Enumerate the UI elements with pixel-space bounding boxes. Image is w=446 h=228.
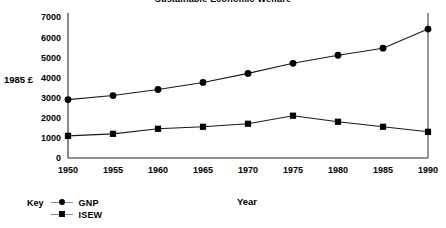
y-tick-label: 4000 [41,73,61,83]
x-tick-label: 1955 [103,165,123,175]
x-tick-label: 1985 [373,165,393,175]
legend-key-label: Key [27,197,44,208]
circle-marker-icon [59,199,65,205]
legend-item-gnp[interactable]: GNP [51,197,103,208]
data-point-gnp [425,26,432,33]
x-tick-label: 1980 [328,165,348,175]
x-tick-label: 1990 [418,165,438,175]
legend-swatch-circle-icon [51,198,73,207]
x-axis-caption: Year [237,196,257,207]
data-point-isew [335,119,341,125]
legend-item-isew[interactable]: ISEW [51,209,103,220]
y-tick-label: 0 [56,153,61,163]
data-point-gnp [155,86,162,93]
y-tick-label: 5000 [41,53,61,63]
data-point-gnp [245,70,252,77]
legend-entries: GNPISEW [51,197,103,220]
chart-legend: Key GNPISEW [27,197,102,220]
y-axis-caption: 1985 £ [4,74,34,85]
data-point-gnp [200,79,207,86]
data-point-isew [425,129,431,135]
x-tick-label: 1965 [193,165,213,175]
data-point-isew [110,131,116,137]
legend-label: GNP [79,198,99,208]
data-point-gnp [110,92,117,99]
y-tick-label: 2000 [41,113,61,123]
data-point-gnp [380,45,387,52]
legend-label: ISEW [79,210,103,220]
data-point-isew [155,126,161,132]
square-marker-icon [59,211,65,217]
chart-plot-area: 010002000300040005000600070001985 £19501… [0,0,446,228]
data-point-isew [245,121,251,127]
data-point-gnp [290,60,297,67]
y-tick-label: 3000 [41,93,61,103]
x-tick-label: 1960 [148,165,168,175]
x-tick-label: 1975 [283,165,303,175]
series-line-gnp [68,29,428,100]
y-tick-label: 6000 [41,33,61,43]
data-point-gnp [335,52,342,59]
x-tick-label: 1950 [58,165,78,175]
chart-root: Sustainable Economic Welfare 01000200030… [0,0,446,228]
y-tick-label: 1000 [41,133,61,143]
data-point-isew [200,124,206,130]
y-tick-label: 7000 [41,12,61,22]
legend-swatch-square-icon [51,210,73,219]
data-point-isew [380,124,386,130]
data-point-gnp [65,96,72,103]
data-point-isew [65,133,71,139]
data-point-isew [290,113,296,119]
x-tick-label: 1970 [238,165,258,175]
